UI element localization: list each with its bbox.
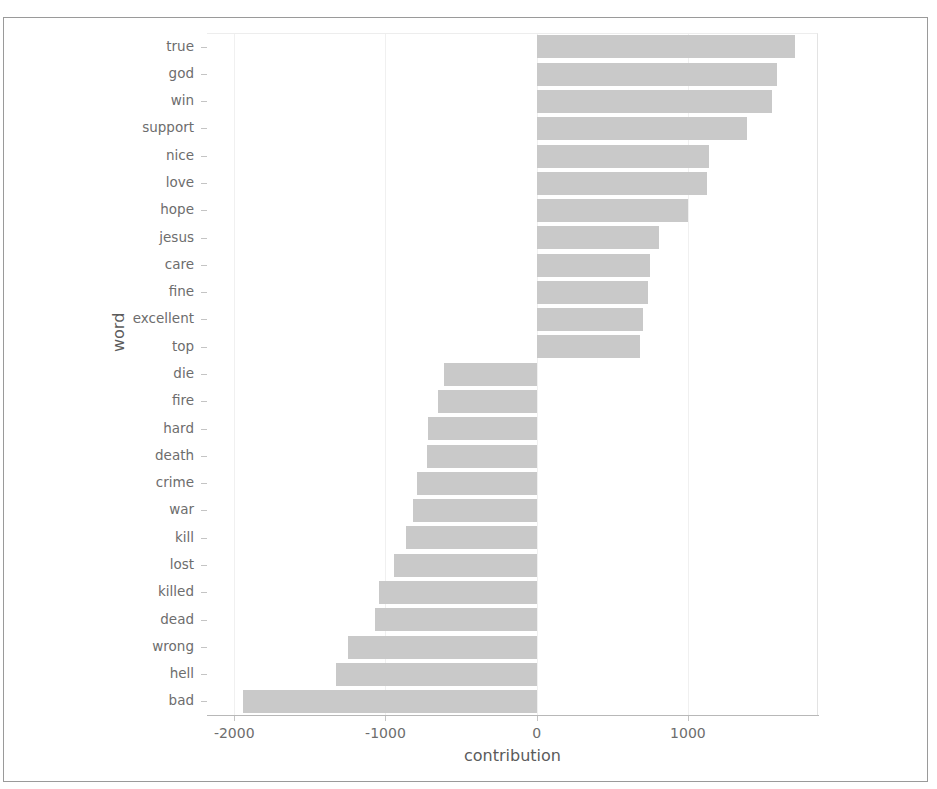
bar-row: [0, 88, 937, 115]
y-tick-label-hard: hard: [163, 422, 194, 436]
y-tick-label-die: die: [173, 367, 194, 381]
y-tick-label-true: true: [166, 40, 194, 54]
y-tick-label-death: death: [155, 449, 194, 463]
y-tick-mark: [201, 319, 207, 320]
y-tick-mark: [201, 592, 207, 593]
x-axis-title: contribution: [207, 748, 818, 764]
bar-row: [0, 251, 937, 278]
bar-war[interactable]: [413, 499, 537, 522]
bar-excellent[interactable]: [537, 308, 644, 331]
bar-support[interactable]: [537, 117, 747, 140]
y-tick-label-fine: fine: [169, 285, 194, 299]
bar-row: [0, 279, 937, 306]
y-tick-mark: [201, 647, 207, 648]
bar-kill[interactable]: [406, 526, 537, 549]
y-tick-mark: [201, 210, 207, 211]
bar-dead[interactable]: [375, 608, 537, 631]
bar-row: [0, 224, 937, 251]
bar-row: [0, 579, 937, 606]
bar-row: [0, 333, 937, 360]
y-tick-mark: [201, 565, 207, 566]
y-tick-mark: [201, 429, 207, 430]
y-tick-mark: [201, 674, 207, 675]
bar-god[interactable]: [537, 63, 777, 86]
x-tick-label--1000: -1000: [365, 726, 406, 740]
bar-killed[interactable]: [379, 581, 537, 604]
bar-row: [0, 469, 937, 496]
bar-love[interactable]: [537, 172, 707, 195]
y-tick-label-crime: crime: [156, 476, 194, 490]
x-tick-label--2000: -2000: [214, 726, 255, 740]
y-tick-mark: [201, 156, 207, 157]
y-tick-mark: [201, 456, 207, 457]
y-tick-label-killed: killed: [158, 585, 194, 599]
y-tick-mark: [201, 101, 207, 102]
y-tick-label-win: win: [171, 94, 194, 108]
y-tick-mark: [201, 74, 207, 75]
y-tick-label-kill: kill: [175, 531, 194, 545]
bar-die[interactable]: [444, 363, 537, 386]
y-tick-label-support: support: [142, 121, 194, 135]
y-tick-mark: [201, 238, 207, 239]
bar-row: [0, 360, 937, 387]
y-tick-label-dead: dead: [160, 613, 194, 627]
y-tick-label-top: top: [172, 340, 194, 354]
bar-death[interactable]: [427, 445, 537, 468]
bar-crime[interactable]: [417, 472, 536, 495]
bar-care[interactable]: [537, 254, 650, 277]
bar-lost[interactable]: [394, 554, 537, 577]
bar-jesus[interactable]: [537, 226, 660, 249]
y-tick-label-love: love: [166, 176, 194, 190]
bar-fire[interactable]: [438, 390, 536, 413]
y-tick-label-excellent: excellent: [133, 312, 194, 326]
bar-win[interactable]: [537, 90, 772, 113]
y-tick-mark: [201, 47, 207, 48]
y-tick-mark: [201, 538, 207, 539]
bar-row: [0, 442, 937, 469]
bar-row: [0, 633, 937, 660]
bar-hard[interactable]: [428, 417, 537, 440]
x-tick-mark: [234, 716, 235, 721]
y-tick-mark: [201, 347, 207, 348]
bar-row: [0, 551, 937, 578]
bar-row: [0, 497, 937, 524]
bar-row: [0, 415, 937, 442]
y-tick-mark: [201, 701, 207, 702]
bar-hell[interactable]: [336, 663, 537, 686]
y-tick-label-fire: fire: [172, 394, 194, 408]
y-tick-mark: [201, 183, 207, 184]
bar-bad[interactable]: [243, 690, 537, 713]
bar-fine[interactable]: [537, 281, 648, 304]
x-tick-label-0: 0: [532, 726, 541, 740]
y-tick-mark: [201, 483, 207, 484]
bar-row: [0, 524, 937, 551]
y-tick-mark: [201, 374, 207, 375]
y-tick-label-hell: hell: [170, 667, 194, 681]
y-tick-mark: [201, 292, 207, 293]
bar-nice[interactable]: [537, 145, 709, 168]
bar-row: [0, 33, 937, 60]
y-tick-label-hope: hope: [160, 203, 194, 217]
bar-row: [0, 197, 937, 224]
y-tick-label-lost: lost: [170, 558, 194, 572]
bar-hope[interactable]: [537, 199, 688, 222]
y-tick-mark: [201, 128, 207, 129]
bar-wrong[interactable]: [348, 636, 536, 659]
y-tick-label-bad: bad: [169, 694, 194, 708]
bar-row: [0, 606, 937, 633]
bar-row: [0, 660, 937, 687]
y-tick-mark: [201, 620, 207, 621]
y-tick-mark: [201, 265, 207, 266]
y-tick-label-nice: nice: [166, 149, 194, 163]
y-tick-label-god: god: [169, 67, 194, 81]
y-tick-mark: [201, 510, 207, 511]
bar-row: [0, 142, 937, 169]
bar-row: [0, 388, 937, 415]
y-tick-label-care: care: [165, 258, 194, 272]
bar-row: [0, 688, 937, 715]
y-tick-mark: [201, 401, 207, 402]
bar-top[interactable]: [537, 335, 641, 358]
y-tick-label-jesus: jesus: [159, 231, 194, 245]
y-tick-label-war: war: [169, 503, 194, 517]
bar-true[interactable]: [537, 35, 796, 58]
